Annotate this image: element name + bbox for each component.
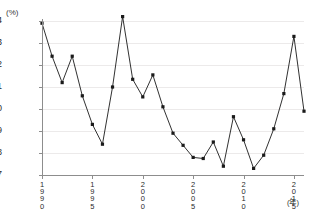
data-point-marker [302, 110, 305, 113]
y-axis-tick-mark [39, 21, 43, 22]
data-point-marker [252, 167, 255, 170]
y-axis-unit-label: (%) [6, 8, 18, 17]
x-axis-tick-label: 1990 [37, 181, 47, 210]
y-axis-tick-label: 11 [0, 82, 2, 91]
data-point-marker [212, 140, 215, 143]
y-axis-tick-mark [39, 153, 43, 154]
x-axis-tick-mark [193, 175, 194, 179]
x-axis-tick-mark [143, 175, 144, 179]
y-axis-tick-mark [39, 43, 43, 44]
y-axis-tick-label: 9 [0, 126, 2, 135]
data-point-marker [202, 157, 205, 160]
y-axis-tick-label: 14 [0, 16, 2, 25]
y-axis-tick-label: 8 [0, 148, 2, 157]
data-point-marker [61, 81, 64, 84]
data-point-marker [272, 127, 275, 130]
data-point-marker [222, 165, 225, 168]
data-point-marker [141, 95, 144, 98]
y-axis-tick-mark [39, 65, 43, 66]
data-point-marker [161, 105, 164, 108]
y-axis-tick-label: 7 [0, 170, 2, 179]
data-point-marker [81, 94, 84, 97]
series-polyline [42, 17, 304, 169]
x-axis-tick-label: 2005 [188, 181, 198, 210]
data-point-marker [111, 85, 114, 88]
data-point-marker [292, 35, 295, 38]
x-axis-tick-label: 2000 [138, 181, 148, 210]
data-point-marker [121, 15, 124, 18]
data-point-marker [171, 132, 174, 135]
data-point-marker [50, 55, 53, 58]
y-axis-tick-mark [39, 109, 43, 110]
data-series-line [42, 21, 304, 175]
y-axis-tick-label: 10 [0, 104, 2, 113]
data-point-marker [181, 144, 184, 147]
data-point-marker [282, 92, 285, 95]
y-axis-tick-mark [39, 87, 43, 88]
data-point-marker [232, 115, 235, 118]
x-axis-line [42, 175, 304, 176]
data-point-marker [262, 154, 265, 157]
x-axis-tick-mark [42, 175, 43, 179]
data-point-marker [91, 123, 94, 126]
data-point-marker [101, 143, 104, 146]
data-point-marker [71, 55, 74, 58]
x-axis-tick-label: 1995 [87, 181, 97, 210]
y-axis-tick-label: 13 [0, 38, 2, 47]
x-axis-tick-mark [294, 175, 295, 179]
data-point-marker [151, 73, 154, 76]
x-axis-tick-mark [244, 175, 245, 179]
x-axis-unit-label: (年) [287, 196, 299, 207]
data-point-marker [242, 138, 245, 141]
y-axis-tick-label: 12 [0, 60, 2, 69]
y-axis-tick-mark [39, 131, 43, 132]
data-point-marker [131, 78, 134, 81]
line-chart: (%) 7891011121314 1990199520002005201020… [0, 0, 310, 213]
x-axis-tick-label: 2010 [239, 181, 249, 210]
plot-area [42, 21, 304, 175]
data-point-marker [192, 156, 195, 159]
x-axis-tick-mark [92, 175, 93, 179]
